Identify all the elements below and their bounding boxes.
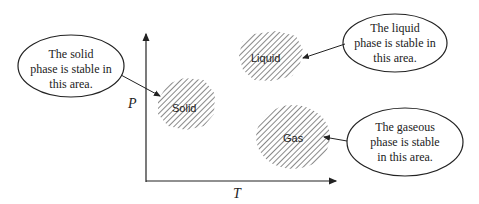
region-gas: Gas (256, 105, 330, 169)
callout-line: this area. (373, 51, 416, 65)
callout-line: phase is stable (370, 135, 439, 149)
callout-line: phase is stable in (354, 36, 436, 50)
region-liquid: Liquid (239, 31, 303, 81)
y-axis-label: P (127, 96, 137, 111)
callout-line: The solid (49, 47, 94, 61)
phase-diagram: P T Solid Liquid Gas The solid phase is … (0, 0, 479, 204)
region-solid: Solid (158, 78, 215, 130)
callout-liquid: The liquid phase is stable in this area. (303, 14, 447, 72)
callout-line: The gaseous (375, 120, 435, 134)
callout-gas: The gaseous phase is stable in this area… (324, 108, 463, 176)
callout-arrow (121, 75, 160, 96)
callout-solid: The solid phase is stable in this area. (18, 35, 160, 97)
x-axis-label: T (233, 186, 242, 201)
callout-line: this area. (49, 77, 92, 91)
callout-line: in this area. (377, 150, 433, 164)
gas-label: Gas (283, 132, 304, 144)
liquid-label: Liquid (251, 52, 280, 64)
callout-arrow (303, 44, 345, 58)
solid-label: Solid (172, 102, 196, 114)
callout-line: phase is stable in (30, 62, 112, 76)
callout-line: The liquid (370, 21, 420, 35)
